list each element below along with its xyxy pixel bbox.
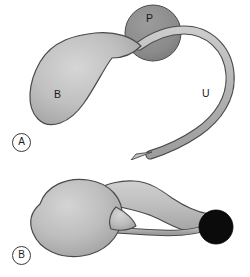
bladder-shape-b [31, 179, 123, 256]
figure-root: B P U [0, 0, 250, 277]
bladder-shape [30, 33, 141, 125]
label-prostate-a: P [146, 13, 153, 24]
panel-tag-a: A [12, 133, 31, 152]
bladder-neck-b [110, 207, 136, 230]
label-ureter-a: U [202, 88, 210, 99]
panel-a: B P U [0, 0, 250, 160]
panel-b-illustration [0, 160, 250, 277]
panel-a-illustration [0, 0, 250, 160]
panel-tag-b: B [12, 246, 31, 265]
label-bladder-a: B [54, 89, 61, 100]
panel-b: B C V U F [0, 160, 250, 277]
fistula-shape [199, 210, 233, 244]
